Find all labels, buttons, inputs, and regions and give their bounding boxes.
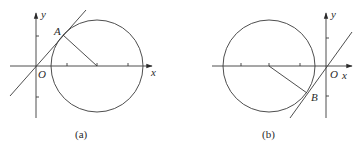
point-a-label: A <box>53 25 61 37</box>
figure-a <box>10 10 152 118</box>
caption-a: (a) <box>75 128 88 141</box>
origin-label-a: O <box>38 68 46 80</box>
origin-label-b: O <box>330 68 338 80</box>
radius-b <box>269 66 307 93</box>
radius-a <box>63 35 97 66</box>
tangent-line-a <box>10 10 86 96</box>
y-axis-label-a: y <box>40 8 46 20</box>
caption-b: (b) <box>262 128 275 141</box>
x-axis-label-b: x <box>341 69 347 81</box>
point-b-label: B <box>311 91 318 103</box>
y-axis-label-b: y <box>330 8 336 20</box>
diagram-canvas: y x O A (a) y x O B (b) <box>0 0 360 147</box>
figure-b <box>212 13 352 118</box>
x-axis-label-a: x <box>150 66 156 78</box>
